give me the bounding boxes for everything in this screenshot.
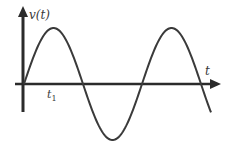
x-axis-arrow-icon	[210, 79, 221, 89]
t1-marker-label: t1	[47, 89, 57, 103]
t1-label-subscript: 1	[51, 94, 56, 103]
y-axis-arrow-icon	[18, 6, 28, 17]
sine-wave-plot	[0, 0, 227, 147]
y-axis-label: v(t)	[29, 9, 50, 21]
x-axis-label: t	[205, 65, 210, 77]
